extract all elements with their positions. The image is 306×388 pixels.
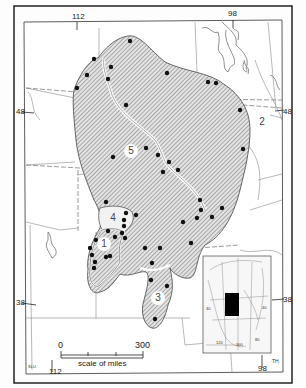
region-label-3: 3 xyxy=(151,291,165,305)
region-label-5: 5 xyxy=(124,144,138,158)
inset-label-40-right: 40 xyxy=(262,305,266,310)
bottom-tick-112: 112 xyxy=(49,368,62,376)
bottom-tick-98: 98 xyxy=(258,365,267,373)
inset-map xyxy=(203,256,271,353)
credit-left: SLU xyxy=(28,364,36,369)
region-label-1: 1 xyxy=(97,237,111,251)
left-tick-48: 48 xyxy=(16,108,25,116)
inset-label-80: 80 xyxy=(255,337,259,342)
left-tick-38: 38 xyxy=(16,299,25,307)
scale-caption: scale of miles xyxy=(78,360,126,368)
top-tick-112: 112 xyxy=(72,13,85,21)
right-tick-48: 48 xyxy=(283,108,292,116)
top-tick-98: 98 xyxy=(228,10,237,18)
inset-label-100: 100 xyxy=(236,342,243,347)
inset-label-40-left: 40 xyxy=(206,306,210,311)
right-tick-38: 38 xyxy=(283,296,292,304)
scale-start: 0 xyxy=(58,341,63,350)
region-label-4: 4 xyxy=(106,211,120,225)
credit-right: TH xyxy=(272,358,279,364)
region-label-2: 2 xyxy=(255,115,269,129)
inset-label-120: 120 xyxy=(216,340,223,345)
map-drawing xyxy=(0,0,306,388)
scale-end: 300 xyxy=(135,341,150,350)
map-figure: 112 98 112 98 48 38 48 38 2 5 4 1 3 0 30… xyxy=(0,0,306,388)
